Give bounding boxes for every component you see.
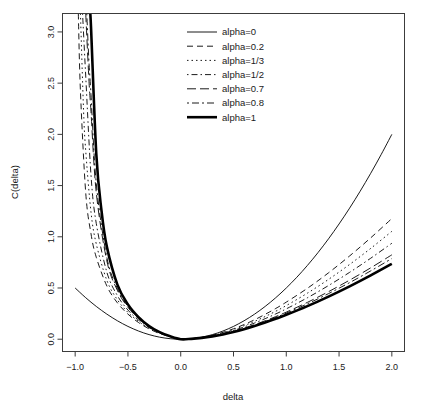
x-tick-label: −1.0 bbox=[66, 362, 84, 372]
chart-background bbox=[0, 0, 430, 416]
y-tick-label: 2.5 bbox=[47, 77, 57, 90]
legend-label-alpha-1: alpha=1 bbox=[222, 112, 256, 123]
y-tick-label: 1.0 bbox=[47, 231, 57, 244]
x-axis-label: delta bbox=[223, 391, 244, 402]
line-chart: −1.0−0.50.00.51.01.52.0 0.00.51.01.52.02… bbox=[0, 0, 430, 416]
y-tick-label: 0.0 bbox=[47, 333, 57, 346]
y-tick-label: 2.0 bbox=[47, 128, 57, 141]
legend-label-alpha-0-2: alpha=0.2 bbox=[222, 41, 264, 52]
y-axis-label: C(delta) bbox=[9, 165, 20, 199]
x-tick-label: 2.0 bbox=[386, 362, 399, 372]
chart-figure: −1.0−0.50.00.51.01.52.0 0.00.51.01.52.02… bbox=[0, 0, 430, 416]
x-tick-label: 1.0 bbox=[280, 362, 293, 372]
x-tick-label: −0.5 bbox=[119, 362, 137, 372]
legend-label-alpha-1-3: alpha=1/3 bbox=[222, 55, 264, 66]
x-tick-label: 1.5 bbox=[333, 362, 346, 372]
legend-label-alpha-0-8: alpha=0.8 bbox=[222, 97, 264, 108]
y-tick-label: 3.0 bbox=[47, 26, 57, 39]
legend-label-alpha-0: alpha=0 bbox=[222, 26, 256, 37]
legend-label-alpha-1-2: alpha=1/2 bbox=[222, 69, 264, 80]
y-tick-label: 0.5 bbox=[47, 282, 57, 295]
x-tick-label: 0.0 bbox=[174, 362, 187, 372]
x-tick-label: 0.5 bbox=[227, 362, 240, 372]
legend-label-alpha-0-7: alpha=0.7 bbox=[222, 83, 264, 94]
y-tick-label: 1.5 bbox=[47, 179, 57, 192]
